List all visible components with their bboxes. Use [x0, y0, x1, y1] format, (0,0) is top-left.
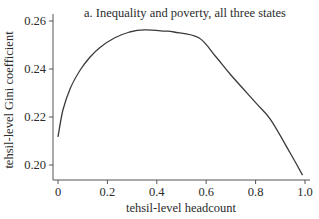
x-tick-label: 0.4: [149, 185, 165, 199]
chart-title: a. Inequality and poverty, all three sta…: [84, 6, 286, 20]
x-tick-label: 1.0: [297, 185, 313, 199]
y-tick-label: 0.22: [24, 110, 46, 124]
y-tick-label: 0.20: [24, 158, 46, 172]
chart: a. Inequality and poverty, all three sta…: [0, 0, 319, 219]
x-tick-label: 0.2: [100, 185, 116, 199]
x-tick-label: 0.8: [248, 185, 264, 199]
y-ticks: 0.200.220.240.26: [24, 14, 53, 172]
x-ticks: 00.20.40.60.81.0: [55, 180, 313, 199]
data-line: [58, 30, 303, 175]
y-axis-label: tehsil-level Gini coefficient: [2, 31, 16, 169]
x-tick-label: 0: [55, 185, 61, 199]
axes: [53, 14, 310, 180]
x-axis-label: tehsil-level headcount: [126, 201, 237, 215]
y-tick-label: 0.24: [24, 62, 47, 76]
y-tick-label: 0.26: [24, 14, 46, 28]
x-tick-label: 0.6: [198, 185, 214, 199]
